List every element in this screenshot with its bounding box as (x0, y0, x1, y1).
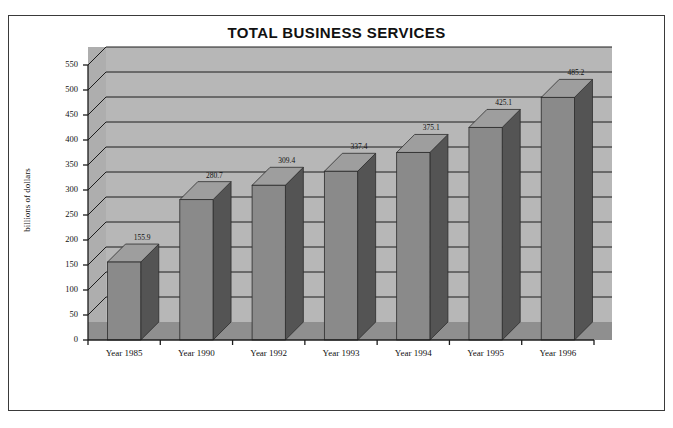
chart-vector-layer (0, 0, 673, 428)
x-axis-category-label: Year 1996 (522, 348, 594, 358)
y-axis-title: billions of dollars (22, 140, 32, 260)
y-axis-tick-label: 100 (44, 284, 78, 294)
y-axis-tick-label: 250 (44, 209, 78, 219)
bar-value-label: 337.4 (328, 142, 389, 151)
x-axis-category-label: Year 1995 (449, 348, 521, 358)
y-axis-tick-label: 50 (44, 309, 78, 319)
y-axis-tick-label: 150 (44, 259, 78, 269)
y-axis-tick-label: 200 (44, 234, 78, 244)
y-axis-tick-label: 0 (44, 334, 78, 344)
y-axis-tick-label: 500 (44, 84, 78, 94)
x-axis-category-label: Year 1992 (233, 348, 305, 358)
x-axis-category-label: Year 1994 (377, 348, 449, 358)
bar-value-label: 485.2 (545, 68, 606, 77)
bar-value-label: 425.1 (473, 98, 534, 107)
x-axis-category-label: Year 1985 (88, 348, 160, 358)
y-axis-tick-label: 300 (44, 184, 78, 194)
y-axis-tick-label: 450 (44, 109, 78, 119)
bar-value-label: 280.7 (184, 171, 245, 180)
plot-area: billions of dollars 155.9280.7309.4337.4… (0, 0, 673, 428)
y-axis-tick-label: 550 (44, 59, 78, 69)
y-axis-tick-label: 350 (44, 159, 78, 169)
bar-value-label: 155.9 (112, 233, 173, 242)
x-axis-category-label: Year 1990 (160, 348, 232, 358)
x-axis-category-label: Year 1993 (305, 348, 377, 358)
y-axis-tick-label: 400 (44, 134, 78, 144)
bar-value-label: 375.1 (401, 123, 462, 132)
chart-page: TOTAL BUSINESS SERVICES billions of doll… (0, 0, 673, 428)
bar-value-label: 309.4 (256, 156, 317, 165)
